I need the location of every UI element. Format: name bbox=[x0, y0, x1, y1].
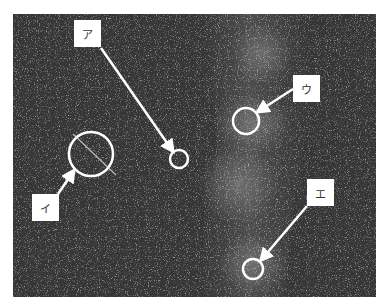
label-a: ア bbox=[74, 20, 101, 47]
label-e: エ bbox=[307, 179, 334, 206]
star-field bbox=[13, 14, 376, 297]
label-i: イ bbox=[32, 194, 59, 221]
milky-way-photo bbox=[13, 14, 376, 297]
label-u: ウ bbox=[293, 75, 320, 102]
